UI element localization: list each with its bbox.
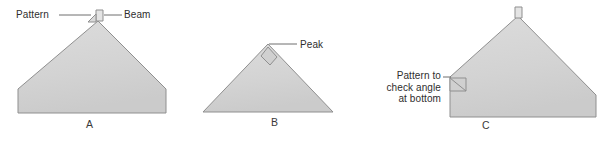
figure-a-label-pattern: Pattern [16, 9, 49, 20]
figure-a-caption: A [86, 118, 93, 130]
figure-c-body [450, 16, 596, 117]
figure-c-group [443, 7, 596, 117]
figure-a-group [18, 10, 166, 113]
figure-c-apex-slot [515, 7, 522, 18]
figure-a-body [18, 21, 166, 113]
figure-c-caption: C [482, 119, 490, 131]
figure-b-group [203, 44, 333, 112]
figure-a-beam-slot [96, 10, 103, 21]
figure-b-label-peak: Peak [300, 39, 323, 50]
figure-c-label-pattern-bottom: Pattern to check angle at bottom [371, 70, 441, 105]
figure-b-caption: B [271, 116, 278, 128]
figure-plate: Pattern Beam Peak Pattern to check angle… [0, 0, 612, 143]
figure-c-label-line-1: Pattern to [371, 70, 441, 82]
figure-c-label-line-2: check angle [371, 82, 441, 94]
figure-c-label-line-3: at bottom [371, 93, 441, 105]
figure-a-label-beam: Beam [124, 9, 151, 20]
